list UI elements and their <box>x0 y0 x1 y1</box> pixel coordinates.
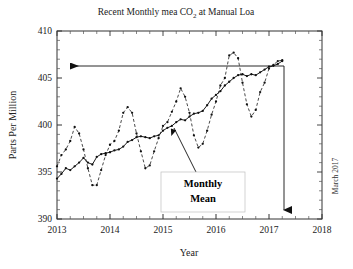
series-point-1 <box>277 63 279 65</box>
series-point-0 <box>188 112 190 114</box>
series-point-0 <box>74 126 76 128</box>
series-point-0 <box>171 111 173 113</box>
series-point-1 <box>135 136 137 138</box>
series-point-0 <box>250 115 252 117</box>
series-point-1 <box>166 127 168 129</box>
series-point-1 <box>127 141 129 143</box>
series-point-0 <box>113 140 115 142</box>
top-axis-minor-ticks <box>57 31 322 36</box>
series-point-0 <box>122 112 124 114</box>
series-point-1 <box>100 153 102 155</box>
series-point-1 <box>144 136 146 138</box>
x-tick-label: 2013 <box>48 225 67 235</box>
series-point-1 <box>113 149 115 151</box>
series-point-1 <box>153 135 155 137</box>
co2-line-chart: Recent Monthly mea CO2 at Manual Loa 390… <box>0 0 353 269</box>
series-point-0 <box>78 132 80 134</box>
series-point-1 <box>188 115 190 117</box>
series-point-1 <box>171 125 173 127</box>
y-tick-label: 400 <box>38 120 53 130</box>
series-point-1 <box>175 121 177 123</box>
series-point-0 <box>166 121 168 123</box>
series-point-0 <box>277 60 279 62</box>
series-point-0 <box>91 184 93 186</box>
series-point-1 <box>246 75 248 77</box>
series-point-0 <box>127 106 129 108</box>
series-point-0 <box>237 57 239 59</box>
y-tick-label: 405 <box>38 73 53 83</box>
series-point-1 <box>56 177 58 179</box>
series-point-1 <box>91 163 93 165</box>
series-point-0 <box>162 125 164 127</box>
y-tick-label: 395 <box>38 167 53 177</box>
series-point-1 <box>219 90 221 92</box>
series-point-1 <box>82 157 84 159</box>
series-point-0 <box>233 51 235 53</box>
march-2017-side-note: March 2017 <box>331 158 340 195</box>
series-point-0 <box>56 165 58 167</box>
series-point-1 <box>237 74 239 76</box>
series-point-0 <box>131 112 133 114</box>
series-point-0 <box>100 169 102 171</box>
series-point-0 <box>259 91 261 93</box>
series-point-1 <box>250 73 252 75</box>
series-point-0 <box>118 129 120 131</box>
series-point-1 <box>206 104 208 106</box>
series-point-0 <box>140 150 142 152</box>
series-point-0 <box>219 84 221 86</box>
chart-figure: Recent Monthly mea CO2 at Manual Loa 390… <box>0 0 353 269</box>
x-tick-label: 2014 <box>101 225 120 235</box>
series-point-1 <box>74 165 76 167</box>
series-point-0 <box>69 140 71 142</box>
series-point-1 <box>224 84 226 86</box>
series-point-0 <box>184 96 186 98</box>
series-point-0 <box>193 134 195 136</box>
series-point-0 <box>175 100 177 102</box>
series-point-0 <box>224 77 226 79</box>
series-point-1 <box>78 161 80 163</box>
series-point-0 <box>197 146 199 148</box>
x-axis-label: Year <box>180 247 199 258</box>
series-point-1 <box>60 173 62 175</box>
series-point-0 <box>82 148 84 150</box>
series-point-1 <box>149 137 151 139</box>
series-point-1 <box>180 118 182 120</box>
series-point-1 <box>281 60 283 62</box>
series-point-0 <box>210 114 212 116</box>
x-tick-label: 2017 <box>260 225 279 235</box>
series-point-1 <box>87 161 89 163</box>
series-point-0 <box>60 154 62 156</box>
chart-title: Recent Monthly mea CO2 at Manual Loa <box>98 7 255 20</box>
series-point-1 <box>118 148 120 150</box>
series-point-1 <box>65 167 67 169</box>
series-point-1 <box>263 68 265 70</box>
series-point-0 <box>228 54 230 56</box>
x-tick-label: 2018 <box>313 225 332 235</box>
series-point-0 <box>246 103 248 105</box>
x-tick-label: 2016 <box>207 225 226 235</box>
right-axis-minor-ticks <box>317 31 322 219</box>
series-point-1 <box>104 152 106 154</box>
series-point-0 <box>144 167 146 169</box>
series-point-1 <box>233 77 235 79</box>
series-point-0 <box>202 143 204 145</box>
monthly-mean-label-line1: Monthly <box>184 178 223 189</box>
series-point-0 <box>153 150 155 152</box>
monthly-mean-callout-arrow <box>174 128 196 172</box>
series-point-1 <box>122 145 124 147</box>
series-point-1 <box>69 169 71 171</box>
series-point-1 <box>215 94 217 96</box>
series-line-trend <box>57 61 282 179</box>
series-point-1 <box>193 113 195 115</box>
series-point-0 <box>135 132 137 134</box>
y-tick-label: 410 <box>38 26 53 36</box>
y-axis-ticks: 390395400405410 <box>38 26 62 224</box>
series-point-0 <box>255 109 257 111</box>
series-point-0 <box>149 164 151 166</box>
series-point-1 <box>140 135 142 137</box>
series-point-1 <box>157 134 159 136</box>
series-point-1 <box>162 129 164 131</box>
series-point-0 <box>96 184 98 186</box>
series-point-1 <box>197 112 199 114</box>
x-tick-label: 2015 <box>154 225 173 235</box>
